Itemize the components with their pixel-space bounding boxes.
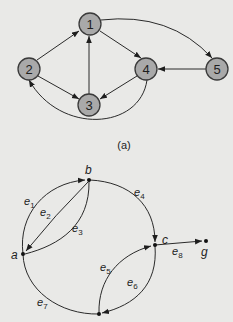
node-2-label: 2 <box>25 62 32 77</box>
edge-e3 <box>25 181 89 254</box>
node-5-label: 5 <box>213 62 220 77</box>
vertex-g-dot <box>204 239 208 243</box>
edge-label-e6: e6 <box>127 276 138 291</box>
vertex-bottom-dot <box>97 312 101 316</box>
figure-b: b a c g e1 e2 e3 e4 e5 e6 e7 e8 <box>11 163 208 316</box>
node-4-label: 4 <box>142 62 149 77</box>
vertex-a-dot <box>21 252 25 256</box>
node-4: 4 <box>135 58 157 80</box>
edge-label-e1: e1 <box>24 195 35 210</box>
edge-label-e8: e8 <box>172 245 183 260</box>
edge-label-e4: e4 <box>134 186 145 201</box>
vertex-b-label: b <box>85 163 92 177</box>
node-1-label: 1 <box>86 17 93 32</box>
figure-a: 1 2 3 4 5 (a) <box>18 13 228 151</box>
figure-a-edges <box>29 19 212 120</box>
node-3: 3 <box>78 94 100 116</box>
edge-e7 <box>23 254 99 314</box>
vertex-c-dot <box>153 243 157 247</box>
edge-e4 <box>90 180 155 242</box>
edge-4-to-3 <box>100 76 137 99</box>
node-2: 2 <box>18 58 40 80</box>
node-5: 5 <box>206 58 228 80</box>
edge-1-to-5 <box>101 19 212 58</box>
edge-1-to-4 <box>100 31 141 58</box>
edge-2-to-1 <box>37 31 79 60</box>
edge-2-to-3 <box>38 76 79 99</box>
vertex-g-label: g <box>201 245 208 259</box>
edge-label-e3: e3 <box>72 222 83 237</box>
vertex-a-label: a <box>11 248 18 262</box>
vertex-c-label: c <box>162 233 168 247</box>
edge-e5 <box>99 246 151 313</box>
vertex-b-dot <box>87 178 91 182</box>
graph-figure: 1 2 3 4 5 (a) <box>0 0 233 322</box>
figure-a-caption: (a) <box>117 139 130 151</box>
edge-label-e5: e5 <box>100 261 111 276</box>
node-3-label: 3 <box>85 98 92 113</box>
node-1: 1 <box>79 13 101 35</box>
edge-label-e2: e2 <box>40 206 51 221</box>
